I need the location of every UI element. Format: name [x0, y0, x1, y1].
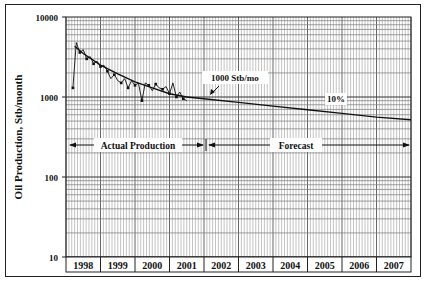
y-tick-label: 10 [49, 253, 59, 263]
decline-annotation: 10% [327, 94, 345, 104]
hyperbolic-fit-line [75, 46, 187, 97]
data-point-marker [106, 70, 109, 73]
x-tick-year: 2004 [280, 260, 300, 271]
y-axis-ticks: 10100100010000 [36, 13, 67, 263]
forecast-label: Forecast [279, 141, 314, 151]
actual-production-label: Actual Production [101, 141, 176, 151]
x-tick-year: 2003 [246, 260, 266, 271]
data-point-marker [161, 88, 164, 91]
forecast-arrow-left [208, 143, 215, 148]
x-axis-year-row: 1998199920002001200220032004200520062007 [66, 257, 411, 272]
x-tick-year: 2006 [349, 260, 369, 271]
x-tick-year: 2002 [211, 260, 231, 271]
y-tick-label: 10000 [36, 13, 59, 23]
data-point-marker [113, 73, 116, 76]
data-point-marker [134, 84, 137, 87]
actual-arrow-left [69, 143, 76, 148]
data-point-marker [120, 82, 123, 85]
y-tick-label: 100 [45, 173, 59, 183]
x-tick-year: 2007 [384, 260, 404, 271]
x-tick-year: 1998 [73, 260, 93, 271]
data-point-marker [85, 58, 88, 61]
y-tick-label: 1000 [40, 93, 59, 103]
x-tick-year: 2005 [315, 260, 335, 271]
x-tick-year: 1999 [108, 260, 128, 271]
x-tick-year: 2000 [142, 260, 162, 271]
y-axis-label: Oil Production, Stb/month [12, 75, 24, 200]
data-point-marker [92, 63, 95, 66]
forecast-arrow-right [403, 143, 410, 148]
decline-curve-chart: 10100100010000 Oil Production, Stb/month… [0, 0, 427, 286]
data-point-marker [175, 96, 178, 99]
grid [66, 17, 411, 257]
data-point-marker [72, 87, 75, 90]
x-tick-year: 2001 [177, 260, 197, 271]
rate-annotation: 1000 Stb/mo [211, 73, 259, 83]
data-point-marker [182, 97, 185, 100]
actual-arrow-right [197, 143, 204, 148]
data-point-marker [127, 87, 130, 90]
data-point-marker [154, 83, 157, 86]
data-point-marker [141, 99, 144, 102]
